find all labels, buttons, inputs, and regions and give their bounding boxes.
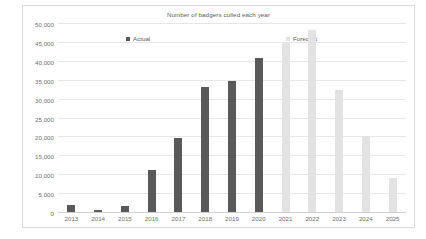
bar-2025[interactable] [389,178,397,212]
bar-2022[interactable] [308,30,316,212]
bar-slot [138,23,165,212]
bar-2024[interactable] [362,136,370,212]
y-axis-tick-label: 40,000 [35,58,54,65]
bar-2018[interactable] [201,87,209,212]
bar-2017[interactable] [174,138,182,212]
bar-2013[interactable] [67,205,75,212]
y-axis-tick-label: 25,000 [35,115,54,122]
bar-slot [245,23,272,212]
bar-2019[interactable] [228,81,236,212]
x-axis-tick-label: 2022 [299,215,326,222]
x-axis-tick-label: 2013 [58,215,85,222]
chart-container: Number of badgers culled each year Actua… [22,5,415,228]
y-axis-tick-label: 5,000 [39,191,54,198]
x-axis-tick-label: 2017 [165,215,192,222]
bar-group [58,23,406,212]
bar-2023[interactable] [335,90,343,212]
x-axis-tick-label: 2019 [219,215,246,222]
y-axis-tick-label: 15,000 [35,153,54,160]
bar-2016[interactable] [148,170,156,212]
bar-slot [299,23,326,212]
y-axis-tick-label: 10,000 [35,172,54,179]
bar-2020[interactable] [255,58,263,212]
bar-slot [192,23,219,212]
x-axis-tick-label: 2023 [326,215,353,222]
bar-slot [272,23,299,212]
x-axis-tick-label: 2020 [245,215,272,222]
bar-slot [165,23,192,212]
x-axis-tick-label: 2021 [272,215,299,222]
x-axis-tick-label: 2015 [112,215,139,222]
y-axis-tick-label: 45,000 [35,39,54,46]
x-axis-tick-label: 2025 [379,215,406,222]
y-axis-tick-label: 50,000 [35,21,54,28]
bar-slot [326,23,353,212]
y-axis-tick-label: 0 [51,210,54,217]
plot-area: 05,00010,00015,00020,00025,00030,00035,0… [58,23,406,212]
x-axis-tick-label: 2014 [85,215,112,222]
bar-slot [379,23,406,212]
bar-slot [219,23,246,212]
y-axis-tick-label: 30,000 [35,96,54,103]
x-axis-labels: 2013201420152016201720182019202020212022… [58,212,406,222]
chart-title: Number of badgers culled each year [23,11,414,18]
bar-slot [352,23,379,212]
x-axis-tick-label: 2018 [192,215,219,222]
y-axis-tick-label: 20,000 [35,134,54,141]
bar-2021[interactable] [282,43,290,212]
y-axis-tick-label: 35,000 [35,77,54,84]
bar-slot [58,23,85,212]
x-axis-tick-label: 2024 [352,215,379,222]
x-axis-tick-label: 2016 [138,215,165,222]
bar-slot [112,23,139,212]
bar-slot [85,23,112,212]
